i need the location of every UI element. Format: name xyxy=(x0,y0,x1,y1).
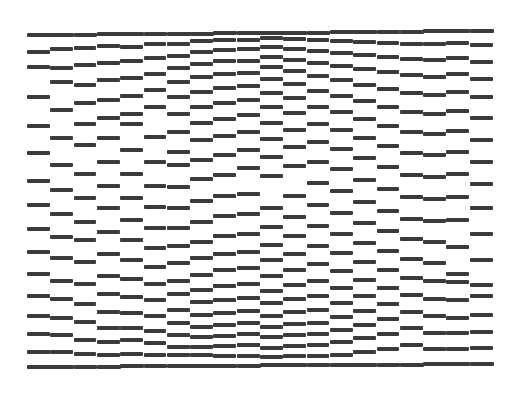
nozzle-bar xyxy=(237,148,260,152)
nozzle-bar xyxy=(307,105,330,109)
nozzle-bar xyxy=(213,173,236,177)
nozzle-bar xyxy=(190,158,213,162)
nozzle-bar xyxy=(377,317,400,321)
nozzle-bar xyxy=(353,350,376,354)
nozzle-bar xyxy=(307,140,330,144)
nozzle-bar xyxy=(260,301,283,305)
bottom-line-segment xyxy=(423,362,447,366)
nozzle-bar xyxy=(283,58,306,62)
nozzle-bar xyxy=(120,277,143,281)
nozzle-bar xyxy=(260,325,283,329)
nozzle-bar xyxy=(283,354,306,358)
nozzle-bar xyxy=(423,58,446,62)
nozzle-bar xyxy=(120,112,143,116)
top-line-segment xyxy=(120,32,144,36)
nozzle-bar xyxy=(213,323,236,327)
nozzle-bar xyxy=(167,321,190,325)
nozzle-bar xyxy=(400,173,423,177)
nozzle-bar xyxy=(377,144,400,148)
nozzle-check-pattern: Print head nozzle check pattern xyxy=(0,0,519,398)
nozzle-bar xyxy=(27,314,50,318)
nozzle-bar xyxy=(307,160,330,164)
nozzle-bar xyxy=(190,90,213,94)
nozzle-bar xyxy=(446,347,469,351)
nozzle-bar xyxy=(97,340,120,344)
top-line-segment xyxy=(307,31,331,35)
nozzle-bar xyxy=(144,353,167,357)
nozzle-bar xyxy=(50,235,73,239)
bottom-line-segment xyxy=(27,365,51,369)
nozzle-bar xyxy=(50,333,73,337)
nozzle-bar xyxy=(330,147,353,151)
nozzle-bar xyxy=(50,316,73,320)
nozzle-bar xyxy=(190,335,213,339)
nozzle-bar xyxy=(353,260,376,264)
nozzle-bar xyxy=(237,343,260,347)
nozzle-bar xyxy=(353,221,376,225)
nozzle-bar xyxy=(237,47,260,51)
nozzle-bar xyxy=(283,145,306,149)
nozzle-bar xyxy=(167,206,190,210)
nozzle-bar xyxy=(330,251,353,255)
bottom-line-segment xyxy=(307,363,331,367)
nozzle-bar xyxy=(97,78,120,82)
nozzle-bar xyxy=(190,273,213,277)
nozzle-bar xyxy=(144,105,167,109)
nozzle-bar xyxy=(27,350,50,354)
nozzle-bar xyxy=(237,250,260,254)
nozzle-bar xyxy=(400,217,423,221)
nozzle-bar xyxy=(260,36,283,40)
nozzle-bar xyxy=(423,279,446,283)
nozzle-bar xyxy=(237,354,260,358)
nozzle-bar xyxy=(167,292,190,296)
top-line-segment xyxy=(353,30,377,34)
nozzle-bar xyxy=(353,178,376,182)
nozzle-bar xyxy=(74,260,97,264)
nozzle-bar xyxy=(283,128,306,132)
nozzle-bar xyxy=(260,206,283,210)
nozzle-bar xyxy=(190,256,213,260)
nozzle-bar xyxy=(120,148,143,152)
nozzle-bar xyxy=(190,75,213,79)
nozzle-bar xyxy=(377,268,400,272)
nozzle-bar xyxy=(283,344,306,348)
nozzle-bar xyxy=(144,329,167,333)
nozzle-bar xyxy=(307,332,330,336)
nozzle-bar xyxy=(144,226,167,230)
nozzle-bar xyxy=(423,93,446,97)
nozzle-bar xyxy=(283,333,306,337)
nozzle-bar xyxy=(213,214,236,218)
nozzle-bar xyxy=(446,109,469,113)
nozzle-bar xyxy=(190,177,213,181)
top-line-segment xyxy=(260,31,284,35)
nozzle-bar xyxy=(27,179,50,183)
nozzle-bar xyxy=(190,300,213,304)
nozzle-bar xyxy=(213,252,236,256)
nozzle-bar xyxy=(167,226,190,230)
bottom-line-segment xyxy=(167,364,191,368)
nozzle-bar xyxy=(283,164,306,168)
nozzle-bar xyxy=(330,94,353,98)
nozzle-bar xyxy=(213,298,236,302)
nozzle-bar xyxy=(120,295,143,299)
nozzle-bar xyxy=(307,244,330,248)
nozzle-bar xyxy=(237,192,260,196)
nozzle-bar xyxy=(237,113,260,117)
nozzle-bar xyxy=(353,99,376,103)
nozzle-bar xyxy=(120,94,143,98)
nozzle-bar xyxy=(446,245,469,249)
nozzle-bar xyxy=(190,138,213,142)
nozzle-bar xyxy=(120,218,143,222)
nozzle-bar xyxy=(283,37,306,41)
nozzle-bar xyxy=(237,282,260,286)
nozzle-bar xyxy=(260,155,283,159)
nozzle-bar xyxy=(470,330,493,334)
nozzle-bar xyxy=(167,112,190,116)
nozzle-bar xyxy=(353,323,376,327)
nozzle-bar xyxy=(423,112,446,116)
nozzle-bar xyxy=(260,274,283,278)
nozzle-bar xyxy=(307,343,330,347)
nozzle-bar xyxy=(330,340,353,344)
nozzle-bar xyxy=(237,84,260,88)
nozzle-bar xyxy=(97,136,120,140)
